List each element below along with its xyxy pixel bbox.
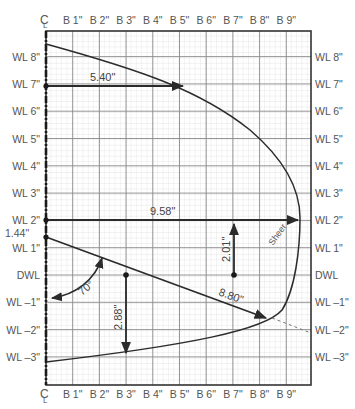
left-axis-label: DWL <box>17 269 40 281</box>
right-axis-label: WL 2" <box>315 214 343 226</box>
left-axis-labels: WL 8"WL 7"WL 6"WL 5"WL 4"WL 3"WL 2"WL 1"… <box>6 51 40 363</box>
bottom-axis-label: B 1" <box>63 388 83 400</box>
top-axis-label: B 2" <box>90 14 110 26</box>
left-axis-label: WL 1" <box>12 242 40 254</box>
top-axis-label: B 9" <box>277 14 297 26</box>
svg-text:L: L <box>43 396 48 405</box>
right-axis-label: WL –1" <box>315 296 349 308</box>
right-axis-label: DWL <box>315 269 338 281</box>
svg-text:L: L <box>43 21 48 30</box>
dimension-wl7-label: 5.40" <box>90 71 115 83</box>
left-axis-label: WL 3" <box>12 187 40 199</box>
grid <box>46 31 311 385</box>
right-axis-label: WL 8" <box>315 51 343 63</box>
top-axis-label: B 7" <box>223 14 243 26</box>
bottom-axis-label: B 4" <box>143 388 163 400</box>
offset-label-1-44: 1.44" <box>5 227 29 239</box>
top-axis-label: B 4" <box>143 14 163 26</box>
dimension-vertical-up-label: 2.01" <box>220 237 232 262</box>
top-axis-label: B 6" <box>196 14 216 26</box>
bottom-axis-label: B 9" <box>277 388 297 400</box>
right-axis-label: WL 1" <box>315 242 343 254</box>
bottom-axis-label: B 3" <box>116 388 136 400</box>
right-axis-label: WL –3" <box>315 351 349 363</box>
sheer-diagram: C L C L B 1"B 2"B 3"B 4"B 5"B 6"B 7"B 8"… <box>0 0 355 409</box>
bottom-axis-labels: B 1"B 2"B 3"B 4"B 5"B 6"B 7"B 8"B 9" <box>63 388 296 400</box>
bottom-axis-label: B 8" <box>250 388 270 400</box>
left-axis-label: WL 2" <box>12 214 40 226</box>
right-axis-label: WL –2" <box>315 324 349 336</box>
dimension-vertical-down-label: 2.88" <box>112 305 124 330</box>
right-axis-label: WL 7" <box>315 78 343 90</box>
top-axis-label: B 8" <box>250 14 270 26</box>
bottom-axis-label: B 7" <box>223 388 243 400</box>
top-axis-label: B 1" <box>63 14 83 26</box>
bottom-axis-label: B 5" <box>170 388 190 400</box>
right-axis-labels: WL 8"WL 7"WL 6"WL 5"WL 4"WL 3"WL 2"WL 1"… <box>315 51 349 363</box>
right-axis-label: WL 3" <box>315 187 343 199</box>
left-axis-label: WL 8" <box>12 51 40 63</box>
left-axis-label: WL –2" <box>6 324 40 336</box>
left-axis-label: WL –3" <box>6 351 40 363</box>
left-axis-label: WL 5" <box>12 133 40 145</box>
left-axis-label: WL –1" <box>6 296 40 308</box>
right-axis-label: WL 5" <box>315 133 343 145</box>
top-axis-label: B 3" <box>116 14 136 26</box>
bottom-axis-label: B 2" <box>90 388 110 400</box>
bottom-axis-label: B 6" <box>196 388 216 400</box>
left-axis-label: WL 4" <box>12 160 40 172</box>
dimension-wl2-label: 9.58" <box>150 205 175 217</box>
top-axis-labels: B 1"B 2"B 3"B 4"B 5"B 6"B 7"B 8"B 9" <box>63 14 296 26</box>
left-axis-label: WL 7" <box>12 78 40 90</box>
right-axis-label: WL 4" <box>315 160 343 172</box>
right-axis-label: WL 6" <box>315 105 343 117</box>
top-axis-label: B 5" <box>170 14 190 26</box>
left-axis-label: WL 6" <box>12 105 40 117</box>
